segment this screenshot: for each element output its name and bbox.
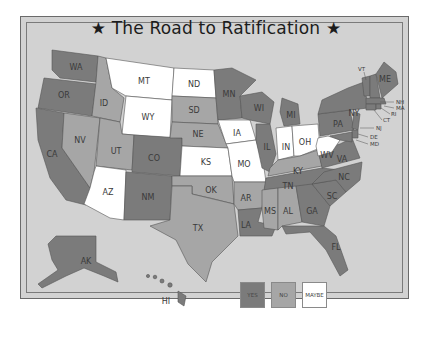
svg-text:WY: WY (142, 113, 155, 122)
svg-text:TN: TN (282, 182, 294, 191)
svg-text:MA: MA (396, 105, 405, 111)
svg-text:ID: ID (100, 99, 109, 108)
svg-text:NE: NE (192, 130, 203, 139)
svg-text:OH: OH (299, 138, 311, 147)
svg-text:ND: ND (188, 80, 200, 89)
svg-text:GA: GA (306, 207, 318, 216)
svg-text:LA: LA (241, 221, 252, 230)
svg-text:NM: NM (142, 193, 155, 202)
svg-text:KS: KS (201, 158, 211, 167)
svg-text:WV: WV (320, 151, 334, 160)
svg-text:NC: NC (338, 173, 350, 182)
state-ct[interactable] (366, 104, 376, 110)
svg-text:SD: SD (188, 106, 199, 115)
svg-text:AZ: AZ (103, 188, 114, 197)
svg-text:MI: MI (286, 111, 295, 120)
legend-yes: YES (240, 282, 265, 308)
svg-text:OK: OK (205, 186, 217, 195)
svg-text:AR: AR (240, 194, 251, 203)
us-map: WA OR CA NV ID MT WY UT AZ CO NM ND SD N… (0, 0, 432, 349)
svg-text:RI: RI (391, 111, 397, 117)
svg-text:KY: KY (293, 167, 303, 176)
svg-text:MO: MO (237, 160, 250, 169)
state-ny[interactable] (318, 82, 368, 114)
legend-no: NO (271, 282, 296, 308)
state-ak[interactable] (38, 236, 118, 288)
svg-text:IA: IA (233, 129, 241, 138)
svg-text:IL: IL (264, 143, 271, 152)
svg-text:ME: ME (379, 75, 391, 84)
svg-text:CT: CT (383, 117, 391, 123)
svg-text:NY: NY (349, 109, 360, 118)
legend: YES NO MAYBE (240, 282, 327, 308)
svg-text:OR: OR (58, 91, 70, 100)
svg-text:PA: PA (333, 120, 343, 129)
svg-text:AK: AK (81, 257, 92, 266)
svg-text:WA: WA (70, 63, 83, 72)
svg-text:CA: CA (46, 150, 58, 159)
svg-text:UT: UT (111, 147, 122, 156)
svg-text:TX: TX (192, 224, 204, 233)
svg-text:HI: HI (162, 297, 170, 306)
svg-text:MN: MN (223, 90, 236, 99)
svg-text:NJ: NJ (376, 125, 382, 132)
svg-text:MT: MT (138, 77, 150, 86)
svg-text:CO: CO (148, 154, 160, 163)
svg-text:WI: WI (254, 104, 264, 113)
svg-text:VA: VA (337, 155, 348, 164)
state-ma[interactable] (366, 98, 386, 104)
svg-text:MS: MS (264, 207, 276, 216)
legend-maybe: MAYBE (302, 282, 327, 308)
svg-text:FL: FL (331, 243, 341, 252)
svg-text:DE: DE (370, 134, 378, 140)
state-de[interactable] (352, 130, 358, 138)
svg-text:VT: VT (358, 66, 366, 72)
svg-text:AL: AL (283, 207, 293, 216)
svg-text:NV: NV (74, 136, 86, 145)
svg-text:MD: MD (370, 141, 379, 147)
svg-text:IN: IN (282, 143, 290, 152)
svg-text:SC: SC (327, 192, 338, 201)
state-ri[interactable] (376, 104, 381, 109)
